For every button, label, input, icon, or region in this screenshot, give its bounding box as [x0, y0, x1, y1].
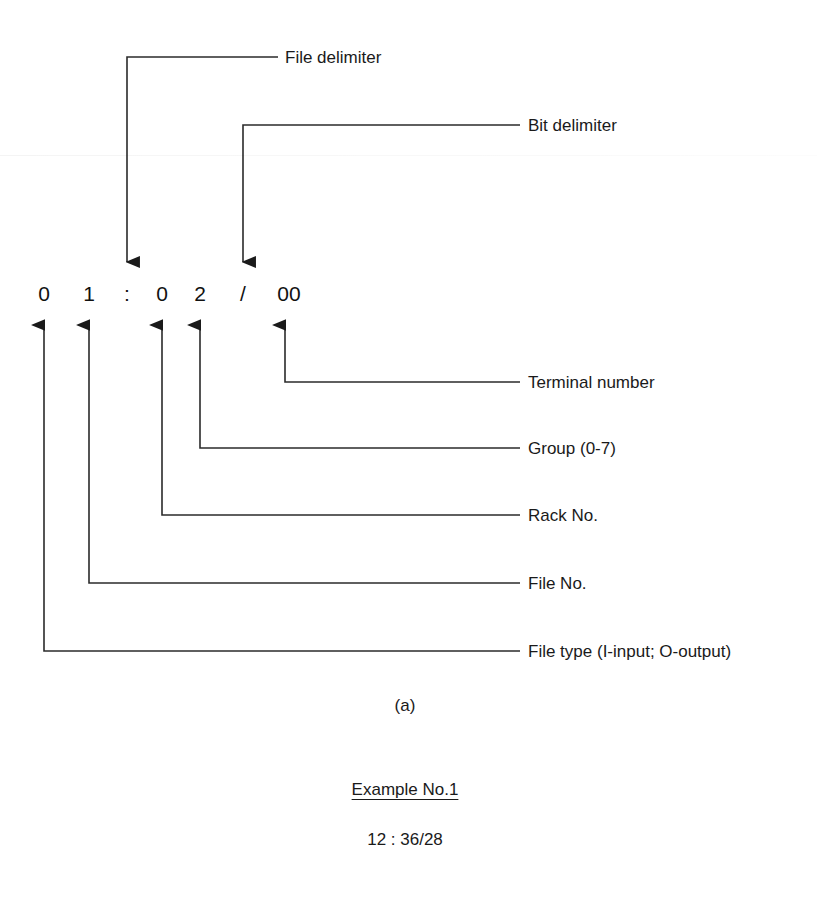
leader-bit-delimiter: [243, 125, 520, 262]
address-breakdown-diagram: [0, 0, 817, 901]
address-char-terminal: 00: [268, 283, 310, 304]
address-char-group: 2: [186, 283, 214, 304]
address-char-rack-no: 0: [148, 283, 176, 304]
leader-file-type: [44, 325, 520, 651]
label-bit-delimiter: Bit delimiter: [528, 117, 617, 134]
example-value: 12 : 36/28: [325, 831, 485, 848]
address-char-file-delimiter: :: [113, 283, 141, 304]
address-char-file-no: 1: [75, 283, 103, 304]
figure-label: (a): [355, 697, 455, 714]
label-rack-no: Rack No.: [528, 507, 598, 524]
leader-rack-no: [162, 325, 520, 515]
label-group: Group (0-7): [528, 440, 616, 457]
leader-file-delimiter: [127, 57, 278, 262]
label-file-no: File No.: [528, 575, 587, 592]
address-char-file-type: 0: [30, 283, 58, 304]
top-leader-lines: [127, 57, 520, 262]
leader-file-no: [89, 325, 520, 583]
label-file-delimiter: File delimiter: [285, 49, 381, 66]
leader-terminal-number: [285, 325, 520, 382]
bottom-leader-lines: [44, 325, 520, 651]
address-char-bit-delimiter: /: [229, 283, 257, 304]
leader-group: [200, 325, 520, 448]
label-terminal-number: Terminal number: [528, 374, 655, 391]
label-file-type: File type (I-input; O-output): [528, 643, 731, 660]
example-heading: Example No.1: [325, 781, 485, 798]
